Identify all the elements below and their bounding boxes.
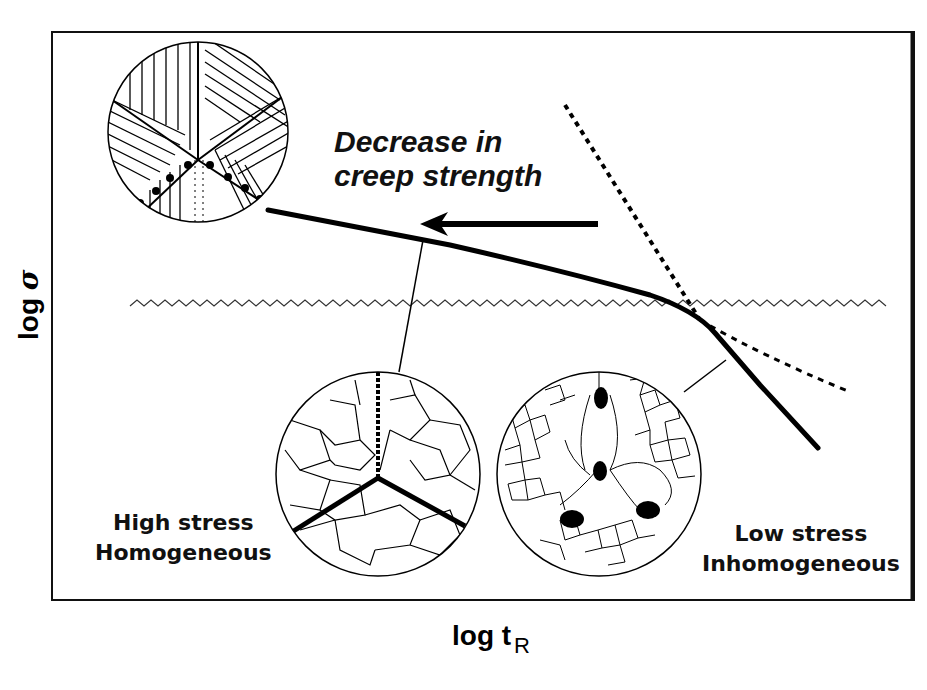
microstructure-high-stress <box>276 372 480 576</box>
y-axis-text: log <box>13 298 44 340</box>
leader-line-low <box>684 360 726 392</box>
high-stress-line-1: High stress <box>95 508 272 538</box>
annotation-line-2: creep strength <box>334 159 542 193</box>
label-high-stress: High stress Homogeneous <box>95 508 272 568</box>
x-axis-text: log t <box>452 620 511 651</box>
stress-boundary-zigzag <box>130 300 886 306</box>
microstructure-low-stress <box>497 372 701 576</box>
low-stress-line-2: Inhomogeneous <box>702 549 900 579</box>
x-axis-subscript: R <box>514 633 530 658</box>
annotation-line-1: Decrease in <box>334 125 542 159</box>
creep-diagram <box>0 0 927 690</box>
leader-line-high <box>399 240 423 372</box>
extrapolation-low-stress <box>700 320 850 392</box>
y-axis-sigma: σ <box>12 270 45 291</box>
x-axis-label: log tR <box>452 620 530 659</box>
low-stress-line-1: Low stress <box>702 519 900 549</box>
annotation-decrease-creep-strength: Decrease in creep strength <box>334 125 542 193</box>
label-low-stress: Low stress Inhomogeneous <box>702 519 900 579</box>
y-axis-label: log σ <box>12 270 45 340</box>
high-stress-line-2: Homogeneous <box>95 538 272 568</box>
